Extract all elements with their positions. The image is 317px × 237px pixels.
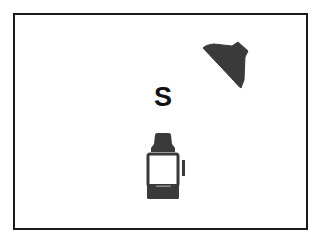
diagram-frame	[13, 13, 308, 230]
center-label: S	[150, 80, 176, 114]
